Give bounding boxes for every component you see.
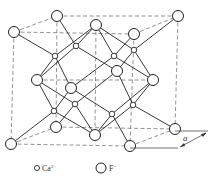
legend-large-circle-icon — [96, 163, 106, 173]
legend: Ca2+ F− — [35, 163, 117, 173]
ion-small — [131, 47, 137, 53]
ion-small — [72, 101, 78, 107]
legend-ca-label: Ca2+ — [42, 164, 56, 174]
ion-large — [51, 122, 62, 133]
ion-large — [9, 27, 20, 38]
ion-large — [52, 11, 63, 22]
ion-large — [90, 130, 101, 141]
ion-small — [73, 43, 79, 49]
ion-large — [129, 29, 140, 40]
ion-large — [112, 66, 123, 77]
large-ions — [6, 11, 184, 152]
ion-large — [170, 124, 181, 135]
ion-small — [109, 111, 115, 117]
ion-small — [111, 53, 117, 59]
ion-large — [6, 139, 17, 150]
lattice-constant-label: a — [183, 133, 188, 143]
ion-large — [148, 75, 159, 86]
ion-large — [173, 11, 184, 22]
ion-large — [32, 75, 43, 86]
legend-small-circle-icon — [35, 166, 40, 171]
ion-large — [66, 83, 77, 94]
ion-small — [52, 53, 58, 59]
ion-small — [130, 102, 136, 108]
legend-f-label: F− — [109, 164, 116, 174]
ion-large — [91, 20, 102, 31]
ion-large — [125, 141, 136, 152]
fluorite-unit-cell-diagram: a Ca2+ F− — [0, 0, 215, 192]
ion-small — [51, 108, 57, 114]
lattice-dimension: a — [130, 131, 208, 148]
